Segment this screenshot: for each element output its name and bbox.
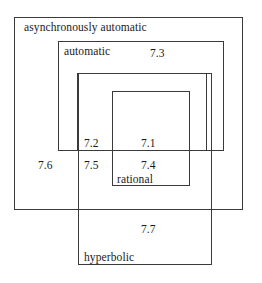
region-label-7-6: 7.6	[38, 160, 52, 172]
region-label-7-4: 7.4	[141, 160, 155, 172]
region-label-7-7: 7.7	[141, 224, 155, 236]
region-label-7-2: 7.2	[84, 138, 98, 150]
region-label-7-3: 7.3	[150, 48, 164, 60]
region-label-7-1: 7.1	[141, 138, 155, 150]
class-label-rational: rational	[117, 174, 153, 186]
class-label-asynchronously-automatic: asynchronously automatic	[24, 22, 147, 34]
class-label-automatic: automatic	[64, 46, 110, 58]
class-label-hyperbolic: hyperbolic	[84, 252, 134, 264]
diagram-canvas: asynchronously automatic automatic ratio…	[0, 0, 262, 283]
region-label-7-5: 7.5	[84, 160, 98, 172]
